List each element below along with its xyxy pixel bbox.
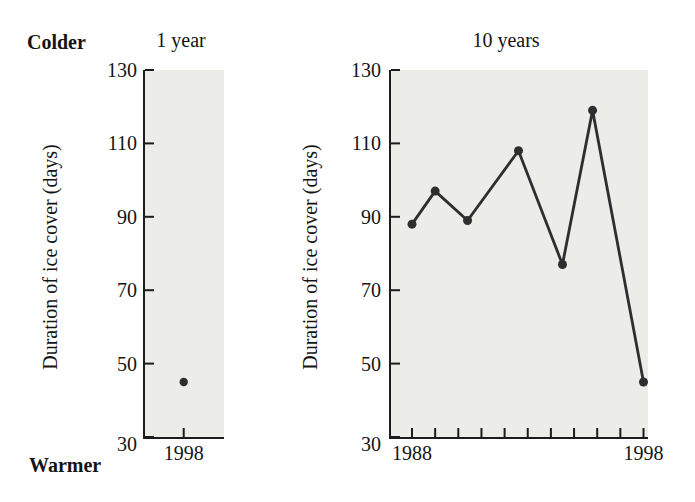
panel-ten-years-title: 10 years	[472, 29, 539, 51]
panel-one-year-plot-area	[143, 70, 224, 439]
x-tick-label-1998: 1998	[139, 443, 229, 463]
y-tick-label-70: 70	[67, 278, 137, 302]
y-tick-label-50: 50	[311, 352, 381, 376]
panel-ten-years-plot-area	[389, 70, 648, 439]
ice-cover-figure: Colder Warmer 1 year Duration of ice cov…	[0, 0, 695, 502]
y-tick-label-110: 110	[311, 131, 381, 155]
y-tick-label-130: 130	[67, 58, 137, 82]
x-tick-label-1998: 1998	[599, 443, 689, 463]
warmer-label: Warmer	[29, 454, 101, 476]
y-tick-label-90: 90	[67, 205, 137, 229]
y-tick-label-30: 30	[67, 432, 137, 456]
y-tick-label-50: 50	[67, 352, 137, 376]
y-tick-label-90: 90	[311, 205, 381, 229]
y-tick-label-110: 110	[67, 131, 137, 155]
panel-one-year-title: 1 year	[156, 29, 205, 51]
y-tick-label-130: 130	[311, 58, 381, 82]
panel-one-year-y-axis-label: Duration of ice cover (days)	[37, 117, 63, 397]
colder-label: Colder	[27, 31, 86, 53]
y-tick-label-70: 70	[311, 278, 381, 302]
x-tick-label-1988: 1988	[367, 443, 457, 463]
